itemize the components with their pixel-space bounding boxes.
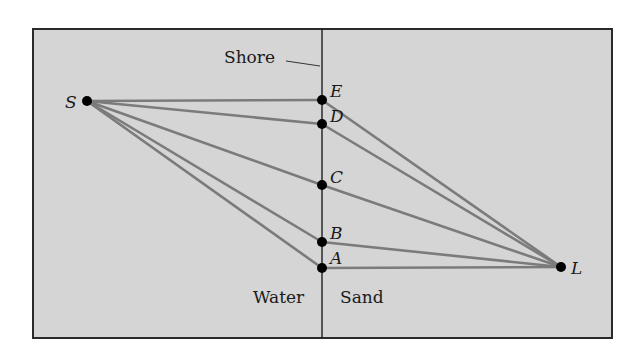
refraction-path-diagram: Shore S E D C B A L Water Sand (0, 0, 643, 357)
point-D (317, 119, 327, 129)
ray-S-to-E (87, 100, 322, 101)
label-S: S (65, 92, 77, 112)
water-label: Water (253, 287, 305, 307)
label-C: C (330, 167, 343, 187)
shore-label: Shore (224, 47, 275, 67)
label-L: L (570, 258, 582, 278)
point-L (556, 262, 566, 272)
point-C (317, 180, 327, 190)
ray-A-to-L (322, 267, 561, 268)
label-B: B (329, 223, 343, 243)
label-A: A (328, 248, 342, 268)
point-S (82, 96, 92, 106)
label-D: D (329, 106, 344, 126)
point-B (317, 237, 327, 247)
label-E: E (329, 81, 343, 101)
sand-label: Sand (340, 287, 384, 307)
point-A (317, 263, 327, 273)
point-E (317, 95, 327, 105)
